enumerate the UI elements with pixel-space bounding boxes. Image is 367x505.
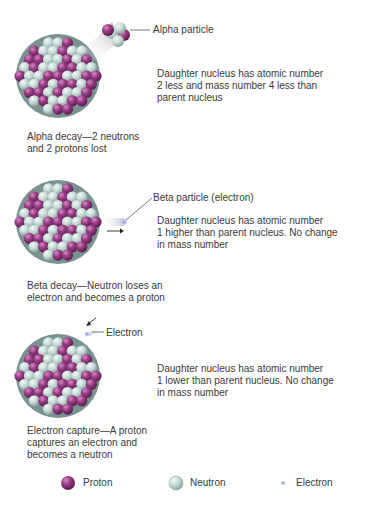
alpha-particle-label: Alpha particle: [153, 24, 214, 36]
legend-electron-label: Electron: [296, 477, 333, 489]
alpha-caption: Alpha decay—2 neutrons and 2 protons los…: [27, 131, 139, 155]
legend-neutron-label: Neutron: [190, 477, 226, 489]
alpha-description: Daughter nucleus has atomic number 2 les…: [157, 68, 323, 104]
capture-description: Daughter nucleus has atomic number 1 low…: [157, 363, 334, 399]
capture-nucleus: [14, 334, 101, 418]
beta-description: Daughter nucleus has atomic number 1 hig…: [157, 215, 338, 251]
neutron-icon: [169, 476, 183, 490]
beta-trail: [102, 218, 124, 226]
proton-icon: [61, 476, 75, 490]
beta-caption: Beta decay—Neutron loses an electron and…: [27, 280, 165, 304]
capture-particle-label: Electron: [106, 327, 143, 339]
legend-proton-label: Proton: [83, 477, 112, 489]
beta-particle-label: Beta particle (electron): [153, 192, 254, 204]
capture-caption: Electron capture—A proton captures an el…: [27, 425, 147, 461]
beta-nucleus: [14, 180, 101, 264]
capture-electron: [85, 332, 90, 337]
electron-icon: [281, 481, 285, 485]
beta-leader-line: [126, 198, 152, 220]
